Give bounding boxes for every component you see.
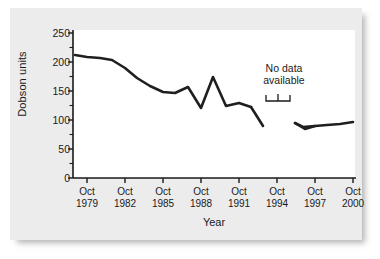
no-data-bracket (266, 94, 290, 101)
data-line-to-gap (251, 107, 263, 126)
data-line-post-gap (295, 122, 353, 127)
figure-root: Dobson units 250 200 150 100 50 0 Oct 19… (0, 0, 380, 259)
chart-svg (0, 0, 380, 259)
data-line-pre-gap (75, 55, 251, 108)
